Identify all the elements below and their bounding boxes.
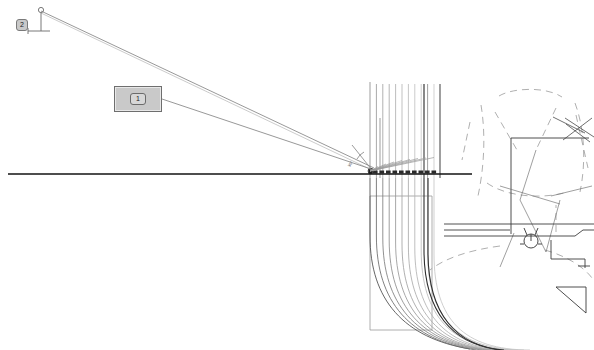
right-thin-segments: [500, 150, 592, 267]
callout-marker-1[interactable]: 1: [114, 86, 162, 112]
leader-line-upper-2: [41, 13, 374, 171]
leader-line-lower: [162, 99, 374, 170]
strand-curve-edges: [424, 178, 504, 350]
callout-marker-1-label: 1: [130, 93, 146, 105]
strand-curve-bundle: [370, 178, 530, 350]
lower-rail-structure: [444, 224, 594, 268]
strand-vertical-emphasis: [424, 84, 440, 178]
callout-marker-2-label: 2: [16, 19, 28, 31]
baseline-tick-markers: [373, 171, 436, 174]
right-solid-assembly: [511, 138, 589, 313]
leader-line-upper: [41, 11, 374, 168]
cad-canvas[interactable]: 2 1 35°: [0, 0, 594, 350]
callout-marker-2[interactable]: 2: [16, 19, 28, 31]
drawing-surface[interactable]: [0, 0, 594, 350]
callout2-leader-geometry: [28, 7, 50, 34]
